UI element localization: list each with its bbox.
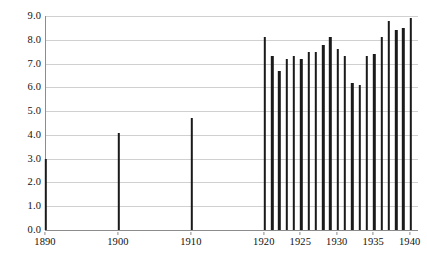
bar [45,159,47,230]
bar [293,56,295,230]
y-axis-tick-label: 1.0 [1,201,41,211]
bars-layer [46,16,418,230]
plot-area [45,16,418,231]
y-axis-tick-label: 4.0 [1,130,41,140]
x-axis-tick-label: 1935 [363,236,384,247]
bar [402,28,404,230]
x-axis-tick-label: 1940 [399,236,420,247]
bar [344,56,346,230]
bar [395,30,397,230]
y-axis-tick-label: 6.0 [1,82,41,92]
y-axis-tick-label: 9.0 [1,11,41,21]
bar [271,56,273,230]
y-axis-tick-label: 5.0 [1,106,41,116]
y-axis-tick-label: 3.0 [1,154,41,164]
x-axis-tick-label: 1900 [107,236,128,247]
bar-chart: 0.01.02.03.04.05.06.07.08.09.0 189019001… [0,0,427,274]
x-axis-tick-mark [409,232,410,235]
bar [366,56,368,230]
bar [322,45,324,230]
y-axis-tick-labels: 0.01.02.03.04.05.06.07.08.09.0 [0,0,41,274]
bar [380,37,382,230]
bar [286,59,288,230]
bar [388,21,390,230]
bar [278,71,280,230]
x-axis-tick-mark [300,232,301,235]
x-axis-tick-label: 1910 [180,236,201,247]
bar [329,37,331,230]
x-axis-tick-mark [263,232,264,235]
bar [358,85,360,230]
x-axis-tick-mark [373,232,374,235]
bar [373,54,375,230]
x-axis-tick-label: 1925 [290,236,311,247]
bar [337,49,339,230]
x-axis-tick-mark [190,232,191,235]
x-axis-tick-label: 1920 [253,236,274,247]
y-axis-tick-label: 8.0 [1,35,41,45]
bar [300,59,302,230]
x-axis-tick-mark [44,232,45,235]
bar [351,83,353,230]
bar [410,18,412,230]
bar [264,37,266,230]
x-axis-tick-mark [336,232,337,235]
y-axis-tick-label: 7.0 [1,59,41,69]
bar [118,133,120,230]
bar [307,52,309,230]
x-axis-tick-label: 1930 [326,236,347,247]
y-axis-tick-label: 0.0 [1,225,41,235]
bar [191,118,193,230]
y-axis-tick-label: 2.0 [1,177,41,187]
x-axis-tick-mark [117,232,118,235]
bar [315,52,317,230]
x-axis-tick-labels: 18901900191019201925193019351940 [45,232,417,262]
x-axis-tick-label: 1890 [34,236,55,247]
